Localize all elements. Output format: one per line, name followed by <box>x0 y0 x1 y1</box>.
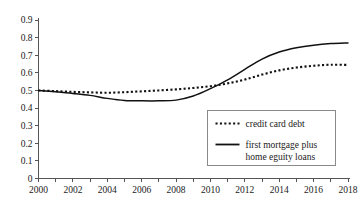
y-tick-label: 0.4 <box>21 103 33 113</box>
chart-legend: credit card debtfirst mortgage plushome … <box>208 111 336 166</box>
x-tick-label: 2000 <box>29 185 48 195</box>
x-tick-label: 2002 <box>63 185 82 195</box>
x-tick-label: 2010 <box>201 185 220 195</box>
legend-label-mortgage-line2: home eguity loans <box>246 152 316 162</box>
y-tick-label: 0.5 <box>21 86 33 96</box>
y-tick-label: 0.2 <box>21 139 33 149</box>
x-tick-label: 2008 <box>167 185 186 195</box>
y-tick-label: 0.3 <box>21 121 33 131</box>
y-axis: 00.10.20.30.40.50.60.70.80.9 <box>21 15 39 184</box>
x-tick-label: 2004 <box>98 185 117 195</box>
y-tick-label: 0 <box>28 174 33 184</box>
line-chart: 00.10.20.30.40.50.60.70.80.9 20002002200… <box>0 0 362 212</box>
data-series-group <box>39 43 349 101</box>
series-line-credit-card-debt <box>39 65 349 93</box>
legend-label-credit-card-debt: credit card debt <box>246 119 305 129</box>
y-tick-label: 0.1 <box>21 156 33 166</box>
y-tick-label: 0.7 <box>21 51 33 61</box>
x-axis: 2000200220042006200820102012201420162018 <box>29 179 358 195</box>
chart-container: 00.10.20.30.40.50.60.70.80.9 20002002200… <box>0 0 362 212</box>
y-tick-label: 0.9 <box>21 15 33 25</box>
x-tick-label: 2014 <box>270 185 289 195</box>
y-tick-label: 0.8 <box>21 33 33 43</box>
x-tick-label: 2018 <box>339 185 358 195</box>
x-tick-label: 2006 <box>132 185 151 195</box>
x-tick-label: 2016 <box>304 185 323 195</box>
x-tick-label: 2012 <box>235 185 254 195</box>
y-tick-label: 0.6 <box>21 68 33 78</box>
series-line-first-mortgage-plus-home-eguity-loans <box>39 43 349 101</box>
legend-label-mortgage-line1: first mortgage plus <box>246 140 318 150</box>
